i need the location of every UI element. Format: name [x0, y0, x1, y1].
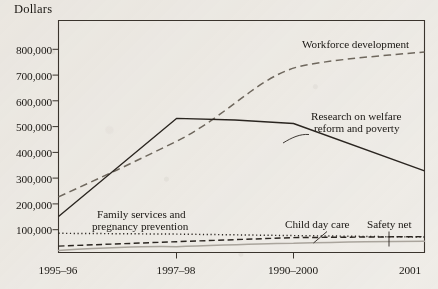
y-axis-ticks — [53, 49, 59, 229]
series-line-research-welfare-reform — [59, 118, 425, 216]
line-chart-figure: Dollars 800,000 700,000 600,000 500,000 … — [0, 0, 438, 289]
series-line-workforce-development — [59, 52, 425, 197]
annotation-leader-lines — [283, 134, 389, 246]
x-axis-ticks — [177, 253, 294, 259]
series-line-safety-net — [59, 241, 425, 250]
chart-plot-area — [0, 0, 438, 289]
leader-line-research — [283, 134, 309, 143]
plot-frame — [59, 21, 425, 253]
